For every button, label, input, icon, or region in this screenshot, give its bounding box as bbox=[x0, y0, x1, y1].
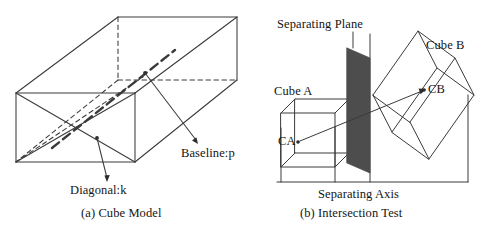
diagonal-label: Diagonal:k bbox=[70, 183, 127, 198]
panel-cube-model: Baseline:p Diagonal:k (a) Cube Model bbox=[0, 0, 242, 237]
separating-axis-label: Separating Axis bbox=[318, 187, 399, 202]
centroid-b-label: CB bbox=[428, 82, 445, 97]
centroid-a-label: CA bbox=[278, 134, 296, 149]
separating-plane-shape bbox=[347, 48, 370, 173]
separating-plane-label: Separating Plane bbox=[277, 17, 363, 32]
cube-a-edges bbox=[281, 99, 349, 167]
cube-baseline-heavy-dashed bbox=[52, 50, 175, 148]
figure-container: Baseline:p Diagonal:k (a) Cube Model bbox=[0, 0, 483, 237]
panel-a-caption: (a) Cube Model bbox=[81, 206, 162, 221]
panel-b-caption: (b) Intersection Test bbox=[300, 206, 402, 221]
cube-b-label: Cube B bbox=[426, 38, 464, 53]
centroid-b-dot bbox=[422, 88, 426, 92]
panel-intersection-test: Separating Plane Cube A Cube B CA CB Sep… bbox=[242, 0, 483, 237]
baseline-label: Baseline:p bbox=[181, 146, 235, 161]
cube-front-face-diagonals bbox=[16, 93, 135, 162]
projection-lines bbox=[281, 34, 468, 182]
cube-a-label: Cube A bbox=[274, 84, 312, 99]
centroid-a-dot bbox=[296, 140, 300, 144]
cube-model-drawing bbox=[0, 0, 242, 237]
